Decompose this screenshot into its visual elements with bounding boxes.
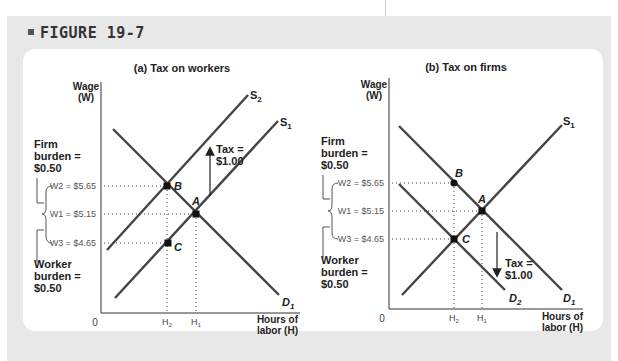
panel-a-w3-label: W3 = $4.65: [50, 238, 96, 248]
panel-b-d2-label: D2: [509, 292, 522, 307]
panel-a-w1-label: W1 = $5.15: [50, 209, 96, 219]
panel-b-firm-burden-2: burden =: [321, 147, 368, 159]
panel-a-h1-label: H1: [191, 317, 202, 328]
panel-b-x-label-1: Hours of: [542, 311, 584, 322]
panel-a-point-b: [164, 183, 171, 190]
panel-a-origin: 0: [92, 317, 98, 328]
panel-b-origin: 0: [379, 313, 385, 324]
panel-a-x-label-2: labor (H): [257, 325, 298, 336]
panel-a-s1-curve: [115, 121, 278, 298]
panel-b-point-a: [479, 208, 486, 215]
panel-a-firm-burden-1: Firm: [34, 138, 58, 150]
panel-b-y-label-1: Wage: [361, 79, 388, 90]
panel-a-y-label-2: (W): [78, 92, 94, 103]
panel-a-x-label-1: Hours of: [257, 314, 299, 325]
panel-a-label-c: C: [174, 241, 183, 253]
panel-a-w2-label: W2 = $5.65: [50, 181, 96, 191]
panel-a-label-a: A: [191, 195, 200, 207]
panel-a-point-a: [193, 211, 200, 218]
panel-b-w1-label: W1 = $5.15: [338, 206, 384, 216]
panel-b-point-b: [450, 179, 457, 186]
panel-b-label-a: A: [477, 193, 486, 205]
panel-b-w3-label: W3 = $4.65: [338, 234, 384, 244]
panel-a-d1-label: D1: [282, 296, 295, 311]
panel-b-label-b: B: [455, 167, 463, 179]
panel-a: (a) Tax on workers Wage (W) 0 Hours of l…: [34, 62, 300, 336]
panel-a-worker-burden-1: Worker: [34, 258, 72, 270]
panel-b-firm-burden-3: $0.50: [321, 159, 349, 171]
panel-b-y-label-2: (W): [366, 90, 382, 101]
panel-b-x-label-2: labor (H): [542, 322, 583, 333]
panel-b-tax-label-1: Tax =: [505, 257, 533, 269]
panel-b-d1-label: D1: [563, 292, 576, 307]
panel-b-h2-label: H2: [449, 313, 460, 324]
panel-b-tax-label-2: $1.00: [505, 269, 533, 281]
panel-a-h2-label: H2: [162, 317, 173, 328]
panel-a-tax-label-1: Tax =: [216, 143, 244, 155]
panel-a-worker-burden-2: burden =: [34, 270, 81, 282]
panel-b-s1-label: S1: [563, 115, 575, 130]
panel-b-worker-burden-2: burden =: [321, 266, 368, 278]
panel-b-w2-label: W2 = $5.65: [338, 178, 384, 188]
panel-b-h1-label: H1: [477, 313, 488, 324]
panel-a-worker-burden-3: $0.50: [34, 282, 62, 294]
panel-a-label-b: B: [174, 180, 182, 192]
figure-chart: (a) Tax on workers Wage (W) 0 Hours of l…: [0, 0, 618, 361]
panel-a-title: (a) Tax on workers: [134, 62, 230, 74]
panel-a-firm-burden-3: $0.50: [34, 162, 62, 174]
panel-b-worker-burden-3: $0.50: [321, 278, 349, 290]
panel-b-point-c: [451, 236, 458, 243]
panel-a-point-c: [165, 240, 172, 247]
panel-a-y-label-1: Wage: [73, 81, 100, 92]
panel-b: (b) Tax on firms Wage (W) 0 Hours of lab…: [321, 61, 584, 333]
panel-b-label-c: C: [462, 233, 471, 245]
panel-b-worker-burden-1: Worker: [321, 254, 359, 266]
panel-a-s2-label: S2: [250, 89, 262, 104]
panel-a-tax-label-2: $1.00: [216, 155, 244, 167]
panel-a-s1-label: S1: [280, 116, 292, 131]
panel-a-firm-burden-2: burden =: [34, 150, 81, 162]
panel-a-s2-curve: [107, 95, 248, 250]
panel-b-title: (b) Tax on firms: [425, 61, 507, 73]
panel-b-firm-burden-1: Firm: [321, 135, 345, 147]
